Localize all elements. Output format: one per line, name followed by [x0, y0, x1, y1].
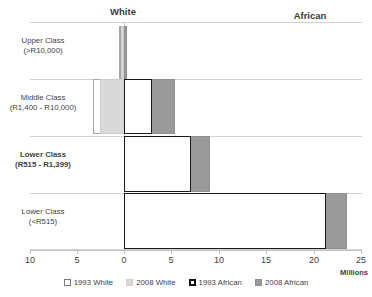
category-label-lower-class-low: Lower Class (<R515) [0, 207, 86, 227]
x-axis-label: 15 [251, 255, 281, 265]
x-axis-tick [171, 250, 172, 254]
category-label-upper-class: Upper Class (>R10,000) [0, 36, 86, 56]
legend-label: 2008 White [136, 278, 175, 287]
category-line-1: Middle Class [21, 93, 66, 102]
legend-item-2008-white[interactable]: 2008 White [126, 278, 175, 287]
legend-label: 1993 White [74, 278, 113, 287]
bar-1993-african [124, 136, 191, 192]
category-line-2: (>R10,000) [0, 46, 86, 56]
x-axis-label: 20 [299, 255, 329, 265]
bar-2008-african [124, 26, 127, 79]
x-axis-label: 5 [62, 255, 92, 265]
x-axis-tick [30, 250, 31, 254]
x-axis-tick [219, 250, 220, 254]
x-axis-tick [266, 250, 267, 254]
legend-swatch-icon [64, 279, 71, 286]
x-axis-tick [361, 250, 362, 254]
legend-swatch-icon [189, 279, 196, 286]
axis-title-millions: Millions [340, 268, 368, 277]
legend-item-2008-african[interactable]: 2008 African [255, 278, 308, 287]
x-axis-label: 25 [346, 255, 372, 265]
x-axis-tick [77, 250, 78, 254]
legend-swatch-icon [126, 279, 133, 286]
x-axis-label: 5 [156, 255, 186, 265]
bar-chart: White African [0, 0, 372, 297]
x-axis-line [30, 250, 362, 251]
bar-1993-african [124, 193, 326, 249]
category-line-1: Lower Class [22, 207, 65, 216]
category-line-2: (R515 - R1,399) [0, 160, 86, 170]
legend-item-1993-african[interactable]: 1993 African [189, 278, 242, 287]
legend-label: 2008 African [265, 278, 308, 287]
group-header-african: African [160, 10, 372, 21]
category-line-2: (R1,400 - R10,000) [0, 103, 86, 113]
legend-item-1993-white[interactable]: 1993 White [64, 278, 113, 287]
x-axis-label: 10 [15, 255, 45, 265]
x-axis-label: 0 [109, 255, 139, 265]
bar-2008-white [100, 79, 124, 134]
category-line-2: (<R515) [0, 217, 86, 227]
category-line-1: Lower Class [20, 150, 66, 159]
category-label-lower-class-mid: Lower Class (R515 - R1,399) [0, 150, 86, 170]
x-axis-label: 10 [204, 255, 234, 265]
x-axis-tick [124, 250, 125, 254]
category-line-1: Upper Class [22, 36, 65, 45]
category-label-middle-class: Middle Class (R1,400 - R10,000) [0, 93, 86, 113]
chart-legend: 1993 White 2008 White 1993 African 2008 … [0, 278, 372, 287]
bar-1993-african [124, 79, 152, 134]
x-axis-tick [314, 250, 315, 254]
legend-swatch-icon [255, 279, 262, 286]
legend-label: 1993 African [199, 278, 242, 287]
